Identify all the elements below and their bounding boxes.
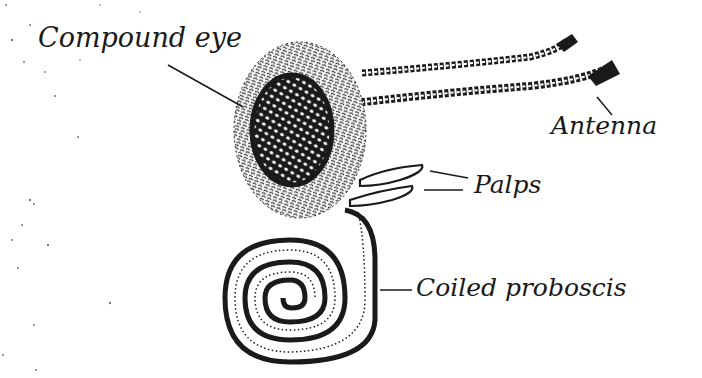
label-antenna: Antenna [551, 113, 657, 138]
leader-compound-eye [168, 65, 243, 107]
coiled-proboscis [225, 210, 375, 362]
diagram-canvas: Compound eye Antenna Palps Coiled probos… [0, 0, 702, 378]
palps [350, 165, 422, 206]
paper-speckles [2, 4, 141, 371]
compound-eye [252, 75, 332, 185]
antennae [355, 34, 620, 103]
insect-head-illustration [0, 0, 702, 378]
label-palps: Palps [474, 172, 541, 197]
label-compound-eye: Compound eye [38, 24, 242, 51]
label-coiled-proboscis: Coiled proboscis [416, 275, 627, 300]
leader-palp-upper [430, 171, 468, 178]
